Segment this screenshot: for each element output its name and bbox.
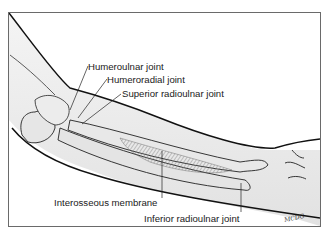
label-inferior-radioulnar-joint: Inferior radioulnar joint xyxy=(144,214,239,224)
label-superior-radioulnar-joint: Superior radioulnar joint xyxy=(122,89,224,99)
label-humeroradial-joint: Humeroradial joint xyxy=(107,75,185,85)
forearm-illustration xyxy=(0,0,328,234)
label-interosseous-membrane: Interosseous membrane xyxy=(54,198,157,208)
label-humeroulnar-joint: Humeroulnar joint xyxy=(88,62,164,72)
